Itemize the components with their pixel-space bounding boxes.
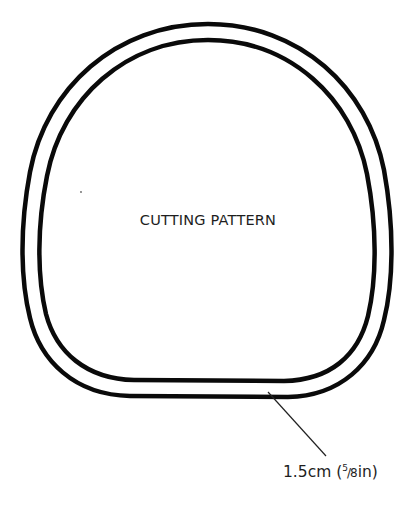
seam-allowance-leader-line <box>268 392 326 456</box>
scan-speck <box>80 191 82 193</box>
cutting-pattern-diagram <box>0 0 416 516</box>
outer-cutting-line <box>23 24 392 397</box>
inner-seam-line <box>39 40 374 381</box>
seam-allowance-label: 1.5cm (5/8in) <box>283 463 378 481</box>
seam-allowance-value: 1.5cm ( <box>283 463 342 481</box>
pattern-title: CUTTING PATTERN <box>0 212 416 228</box>
fraction-denominator: 8 <box>350 466 358 480</box>
unit-suffix: in) <box>358 463 378 481</box>
